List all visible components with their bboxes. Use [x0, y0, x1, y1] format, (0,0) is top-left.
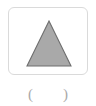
answer-blank-caption: ( ): [0, 84, 96, 104]
shape-card: [8, 7, 88, 75]
close-paren: ): [63, 84, 68, 104]
triangle-shape: [27, 21, 71, 66]
triangle-icon: [9, 8, 89, 76]
answer-blank-slot[interactable]: [33, 87, 63, 101]
